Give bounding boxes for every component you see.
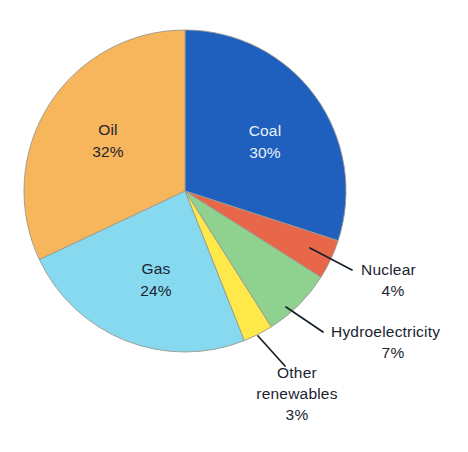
pie-slices-group <box>24 30 346 352</box>
slice-label-oil-name: Oil <box>98 121 118 138</box>
callout-label-nuclear-value: 4% <box>382 282 405 299</box>
callout-label-hydroelectricity: Hydroelectricity 7% <box>331 323 440 361</box>
slice-label-oil-value: 32% <box>92 143 124 160</box>
callout-label-other-renewables: Other renewables 3% <box>256 364 337 423</box>
callout-label-hydroelectricity-name: Hydroelectricity <box>331 323 440 340</box>
slice-label-gas-value: 24% <box>140 282 172 299</box>
leader-line-hydroelectricity <box>286 307 323 332</box>
slice-label-gas-name: Gas <box>141 260 170 277</box>
leader-line-other-renewables <box>258 336 285 366</box>
callout-label-other-renewables-value: 3% <box>286 406 309 423</box>
slice-label-coal-value: 30% <box>249 144 281 161</box>
callout-label-nuclear-name: Nuclear <box>361 261 416 278</box>
callout-label-other-renewables-name2: renewables <box>256 385 337 402</box>
slice-label-coal-name: Coal <box>249 122 282 139</box>
callout-label-other-renewables-name: Other <box>277 364 317 381</box>
pie-chart-svg: Coal 30% Gas 24% Oil 32% Nuclear 4% Hydr… <box>0 0 468 452</box>
callout-label-nuclear: Nuclear 4% <box>361 261 416 299</box>
callout-label-hydroelectricity-value: 7% <box>382 344 405 361</box>
pie-chart-figure: Coal 30% Gas 24% Oil 32% Nuclear 4% Hydr… <box>0 0 468 452</box>
